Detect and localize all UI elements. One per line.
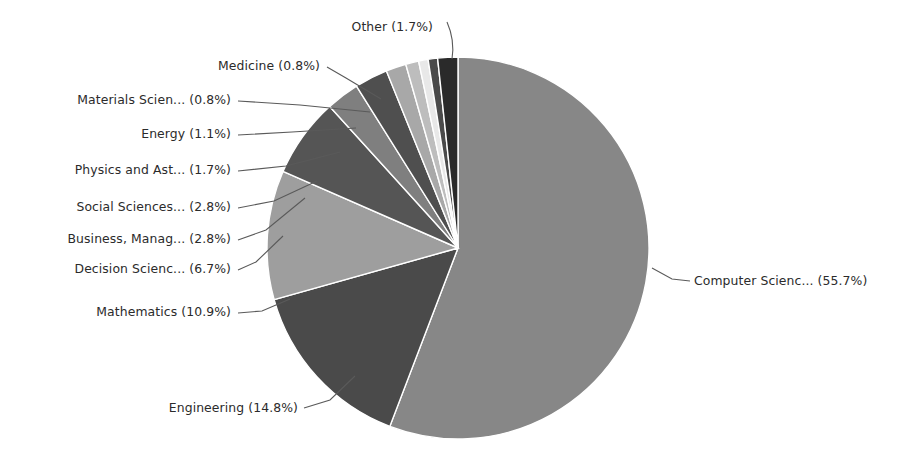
slice-label: Business, Manag... (2.8%) [67, 231, 231, 246]
slice-label: Decision Scienc... (6.7%) [75, 261, 232, 276]
slice-label: Mathematics (10.9%) [96, 304, 231, 319]
slice-label: Materials Scien... (0.8%) [77, 92, 231, 107]
slice-label: Social Sciences... (2.8%) [76, 199, 231, 214]
slice-label: Physics and Ast... (1.7%) [75, 162, 231, 177]
pie-chart-figure: Computer Scienc... (55.7%)Engineering (1… [0, 0, 913, 468]
slice-label: Energy (1.1%) [141, 126, 231, 141]
slice-label: Engineering (14.8%) [169, 400, 298, 415]
pie-chart-canvas: Computer Scienc... (55.7%)Engineering (1… [0, 0, 913, 468]
slice-label: Other (1.7%) [352, 19, 433, 34]
slice-label: Computer Scienc... (55.7%) [694, 273, 867, 288]
slice-label: Medicine (0.8%) [218, 58, 320, 73]
pie-slices-group [267, 57, 649, 439]
